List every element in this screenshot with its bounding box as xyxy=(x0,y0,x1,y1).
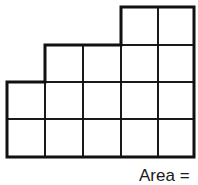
unit-square xyxy=(158,7,194,45)
unit-square xyxy=(7,82,45,119)
unit-square xyxy=(7,119,45,157)
unit-square xyxy=(121,119,158,157)
unit-square xyxy=(158,119,194,157)
unit-square xyxy=(83,119,121,157)
unit-square xyxy=(121,45,158,82)
unit-square xyxy=(121,82,158,119)
grid-area-figure xyxy=(0,0,198,185)
unit-square xyxy=(83,45,121,82)
unit-square xyxy=(45,119,83,157)
unit-square xyxy=(121,7,158,45)
unit-square xyxy=(83,82,121,119)
unit-square xyxy=(158,45,194,82)
unit-square xyxy=(45,82,83,119)
area-label: Area = xyxy=(139,166,190,185)
unit-square xyxy=(45,45,83,82)
unit-square xyxy=(158,82,194,119)
